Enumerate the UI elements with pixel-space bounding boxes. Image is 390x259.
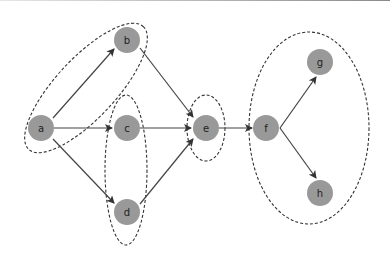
edge-f-h: [280, 128, 316, 178]
node-e-label: e: [203, 123, 209, 134]
node-a: a: [28, 115, 54, 141]
graph-diagram: a b c d e f g h: [0, 0, 390, 259]
edge-b-e: [140, 48, 193, 117]
node-b-label: b: [124, 35, 130, 46]
node-f: f: [253, 115, 279, 141]
node-c-label: c: [124, 123, 130, 134]
group-ab-outline: [7, 6, 165, 170]
node-d: d: [114, 199, 140, 225]
node-b: b: [114, 27, 140, 53]
group-outlines: [7, 6, 369, 245]
node-g: g: [307, 49, 333, 75]
node-f-label: f: [264, 123, 268, 134]
edge-a-b: [53, 49, 114, 118]
edge-f-g: [280, 77, 316, 128]
node-g-label: g: [317, 57, 323, 68]
node-c: c: [114, 115, 140, 141]
node-d-label: d: [124, 207, 130, 218]
node-e: e: [193, 115, 219, 141]
node-h: h: [307, 180, 333, 206]
node-h-label: h: [317, 188, 323, 199]
node-a-label: a: [38, 123, 44, 134]
edge-d-e: [140, 139, 193, 204]
